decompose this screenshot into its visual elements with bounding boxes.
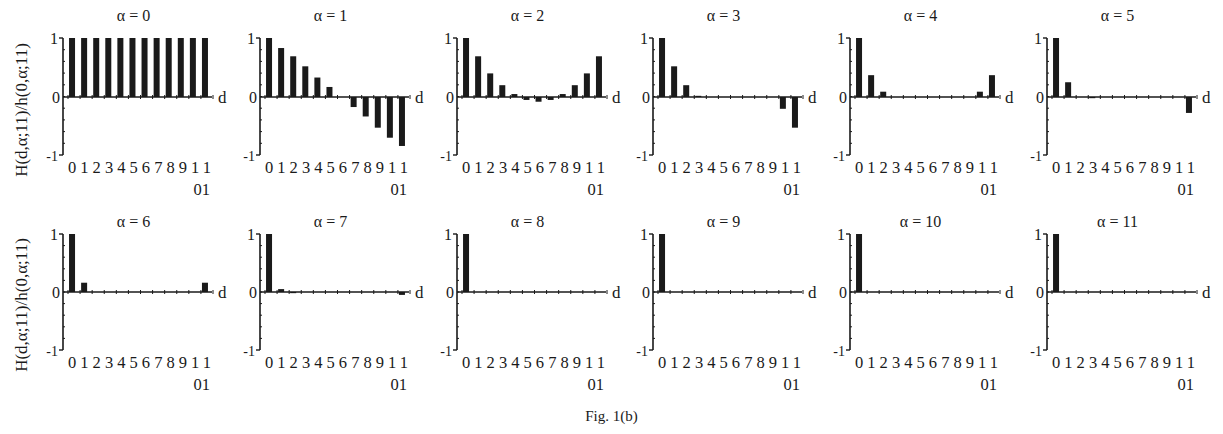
bar-d1 [81, 38, 87, 97]
chart-panel-alpha-9: α = 910-1d01234567891101 [636, 213, 817, 394]
ytick-minus-1: -1 [636, 149, 648, 164]
bar-d1 [81, 283, 87, 292]
xtick-labels-wrap: 01 [981, 375, 998, 394]
figure-canvas: α = 010-1d01234567891101α = 110-1d012345… [0, 0, 1223, 434]
x-axis-label: d [415, 88, 424, 107]
ytick-0: 0 [642, 284, 650, 301]
xtick-labels: 012345678911 [658, 158, 801, 177]
chart-panel-alpha-11: α = 1110-1d01234567891101 [1030, 213, 1211, 394]
bar-d0 [463, 234, 469, 292]
ytick-1: 1 [640, 226, 648, 243]
xtick-labels-wrap: 01 [784, 375, 801, 394]
bar-d10 [780, 97, 786, 109]
chart-panel-alpha-7: α = 710-1d01234567891101 [243, 213, 424, 394]
panel-title: α = 2 [511, 7, 544, 24]
bar-d9 [178, 38, 184, 97]
bar-d1 [671, 66, 677, 97]
x-axis-label: d [1202, 88, 1211, 107]
bar-d0 [266, 38, 272, 97]
bar-d1 [278, 48, 284, 97]
ytick-1: 1 [247, 30, 255, 47]
xtick-labels-wrap: 01 [194, 375, 211, 394]
panel-title: α = 3 [707, 7, 740, 24]
figure-caption: Fig. 1(b) [0, 408, 1223, 425]
bar-d8 [166, 38, 172, 97]
chart-panel-alpha-0: α = 010-1d01234567891101 [46, 7, 227, 199]
xtick-labels: 012345678911 [855, 353, 998, 372]
xtick-labels-wrap: 01 [391, 375, 408, 394]
bar-d10 [190, 38, 196, 97]
bar-d0 [659, 234, 665, 292]
x-axis-label: d [415, 283, 424, 302]
x-axis-label: d [612, 88, 621, 107]
bar-d1 [1065, 82, 1071, 97]
x-axis-label: d [1202, 283, 1211, 302]
bar-d11 [399, 97, 405, 146]
ytick-0: 0 [839, 284, 847, 301]
bar-d0 [69, 38, 75, 97]
xtick-labels: 012345678911 [658, 353, 801, 372]
panel-title: α = 11 [1097, 213, 1138, 230]
ytick-0: 0 [1036, 284, 1044, 301]
xtick-labels: 012345678911 [68, 353, 211, 372]
x-axis-label: d [808, 283, 817, 302]
xtick-labels-wrap: 01 [1178, 375, 1195, 394]
x-axis-label: d [612, 283, 621, 302]
bar-d2 [93, 38, 99, 97]
bar-d4 [314, 78, 320, 97]
ytick-minus-1: -1 [243, 344, 255, 359]
bar-d3 [105, 38, 111, 97]
ytick-0: 0 [249, 284, 257, 301]
panel-title: α = 7 [314, 213, 347, 230]
xtick-labels: 012345678911 [265, 158, 408, 177]
bar-d0 [1053, 38, 1059, 97]
ytick-minus-1: -1 [1030, 344, 1042, 359]
xtick-labels-wrap: 01 [588, 180, 605, 199]
bar-d2 [683, 85, 689, 97]
bar-d7 [351, 97, 357, 107]
bar-d2 [487, 73, 493, 97]
panel-title: α = 0 [117, 7, 150, 24]
bar-d11 [596, 56, 602, 97]
xtick-labels: 012345678911 [462, 158, 605, 177]
xtick-labels: 012345678911 [462, 353, 605, 372]
y-axis-label-row-1: H(d,α;11)/h(0,α;11) [12, 20, 32, 200]
ytick-0: 0 [1036, 89, 1044, 106]
ytick-0: 0 [52, 89, 60, 106]
chart-panel-alpha-8: α = 810-1d01234567891101 [440, 213, 621, 394]
bar-d11 [1186, 97, 1192, 113]
chart-panel-alpha-6: α = 610-1d01234567891101 [46, 213, 227, 394]
bar-d3 [302, 66, 308, 97]
xtick-labels: 012345678911 [68, 158, 211, 177]
bar-d11 [989, 75, 995, 97]
xtick-labels: 012345678911 [265, 353, 408, 372]
y-axis-label-row-2: H(d,α;11)/h(0,α;11) [12, 215, 32, 395]
bar-d0 [266, 234, 272, 292]
bar-d8 [363, 97, 369, 116]
x-axis-label: d [218, 88, 227, 107]
bar-d1 [475, 56, 481, 97]
bar-d6 [142, 38, 148, 97]
bar-d0 [1053, 234, 1059, 292]
ytick-1: 1 [444, 30, 452, 47]
ytick-0: 0 [249, 89, 257, 106]
chart-panel-alpha-5: α = 510-1d01234567891101 [1030, 7, 1211, 199]
xtick-labels-wrap: 01 [784, 180, 801, 199]
bar-d0 [69, 234, 75, 292]
bar-d11 [792, 97, 798, 128]
bar-d9 [375, 97, 381, 128]
panel-title: α = 8 [511, 213, 544, 230]
xtick-labels-wrap: 01 [194, 180, 211, 199]
ytick-0: 0 [642, 89, 650, 106]
ytick-1: 1 [640, 30, 648, 47]
ytick-1: 1 [50, 30, 58, 47]
ytick-0: 0 [52, 284, 60, 301]
ytick-minus-1: -1 [46, 344, 58, 359]
bar-d0 [856, 38, 862, 97]
ytick-1: 1 [247, 226, 255, 243]
xtick-labels: 012345678911 [855, 158, 998, 177]
xtick-labels: 012345678911 [1052, 353, 1195, 372]
xtick-labels-wrap: 01 [391, 180, 408, 199]
x-axis-label: d [218, 283, 227, 302]
ytick-1: 1 [444, 226, 452, 243]
